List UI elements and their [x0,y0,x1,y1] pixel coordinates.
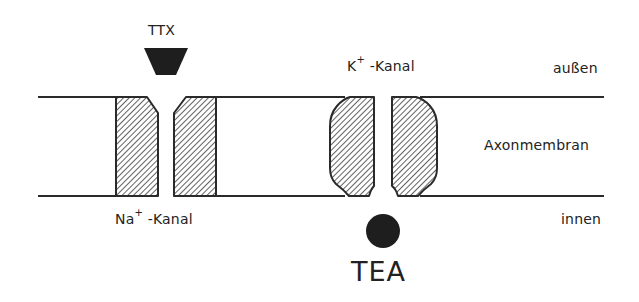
tea-blocker-icon [366,214,400,248]
ttx-label: TTX [148,22,175,38]
k-channel-suffix: -Kanal [365,58,415,74]
inside-label: innen [561,211,601,227]
membrane-label-text: Axonmembran [484,137,589,153]
membrane-label: Axonmembran [484,137,589,153]
k-channel-left-subunit [330,97,374,196]
na-channel-charge: + [134,207,143,218]
na-channel-label: Na+ -Kanal [115,209,193,227]
ttx-blocker-icon [144,48,188,75]
k-channel [330,97,437,196]
na-channel [116,97,216,196]
k-channel-charge: + [356,54,365,65]
tea-label: TEA [351,256,406,287]
k-channel-label: K+ -Kanal [347,56,415,74]
na-channel-suffix: -Kanal [143,211,193,227]
outside-label-text: außen [553,60,598,76]
inside-label-text: innen [561,211,601,227]
outside-label: außen [553,60,598,76]
na-channel-left-subunit [116,97,158,196]
k-channel-right-subunit [392,97,437,196]
na-channel-right-subunit [174,97,216,196]
tea-label-text: TEA [351,256,406,287]
ttx-label-text: TTX [148,22,175,38]
na-channel-ion: Na [115,211,134,227]
k-channel-ion: K [347,58,356,74]
